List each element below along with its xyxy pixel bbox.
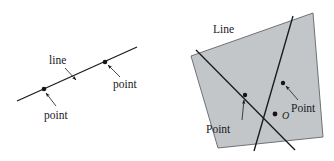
plane-line-label: Line	[213, 23, 234, 35]
plane-point-left-marker	[243, 93, 247, 97]
left-point-left-leader	[46, 93, 56, 106]
plane-intersection-label: O	[282, 110, 289, 121]
geometry-figure: line point point	[0, 0, 334, 161]
left-point-left-label: point	[44, 109, 68, 122]
left-point-left-marker	[42, 87, 47, 92]
left-line-label: line	[49, 54, 66, 66]
geometry-figure-container: line point point	[0, 0, 334, 161]
left-line-stroke	[17, 47, 137, 101]
left-point-right-marker	[103, 60, 108, 65]
left-point-right-label: point	[113, 78, 137, 91]
plane-point-right-label: Point	[291, 102, 316, 114]
plane-intersection-marker	[273, 112, 278, 117]
left-diagram: line point point	[17, 47, 137, 122]
right-diagram: Line Point Point O	[191, 13, 323, 151]
plane-point-left-label: Point	[206, 123, 231, 135]
plane-point-right-marker	[281, 81, 285, 85]
left-point-right-leader	[108, 65, 120, 77]
